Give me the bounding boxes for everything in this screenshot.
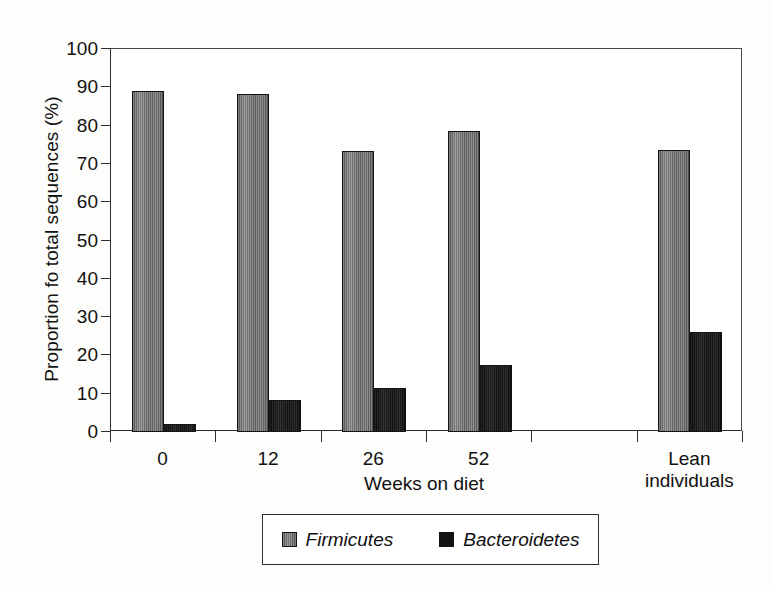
y-tick-mark — [101, 201, 110, 202]
x-tick-mark — [637, 431, 638, 442]
y-tick-mark — [101, 86, 110, 87]
y-tick-mark — [101, 354, 110, 355]
y-tick-label: 60 — [44, 192, 98, 211]
bar-chart-figure: Proportion fo total sequences (%) 010203… — [0, 0, 772, 591]
y-tick-mark — [101, 163, 110, 164]
y-tick-label: 90 — [44, 77, 98, 96]
bar-firmicutes-0 — [132, 91, 164, 432]
legend-swatch-icon — [282, 532, 297, 547]
y-tick-label: 10 — [44, 383, 98, 402]
x-tick-label: Lean individuals — [645, 448, 734, 493]
legend-swatch-icon — [439, 532, 454, 547]
bar-bacteroidetes-12 — [269, 400, 301, 432]
legend-label: Bacteroidetes — [463, 529, 579, 551]
plot-area — [110, 48, 742, 431]
x-tick-mark — [426, 431, 427, 442]
x-tick-label: 12 — [257, 448, 278, 470]
legend-item-bacteroidetes: Bacteroidetes — [439, 529, 579, 551]
y-tick-mark — [101, 431, 110, 432]
bar-bacteroidetes-52 — [480, 365, 512, 432]
y-tick-mark — [101, 48, 110, 49]
y-tick-label: 20 — [44, 345, 98, 364]
y-tick-label: 0 — [44, 422, 98, 441]
bar-firmicutes-52 — [448, 131, 480, 432]
chart-legend: Firmicutes Bacteroidetes — [262, 514, 599, 565]
legend-label: Firmicutes — [306, 529, 394, 551]
y-tick-mark — [101, 125, 110, 126]
x-tick-mark — [531, 431, 532, 442]
bar-bacteroidetes-lean-individuals — [690, 332, 722, 432]
y-tick-label: 80 — [44, 115, 98, 134]
y-tick-mark — [101, 278, 110, 279]
x-tick-mark — [742, 431, 743, 442]
y-tick-label: 50 — [44, 230, 98, 249]
bar-firmicutes-26 — [342, 151, 374, 432]
y-tick-label: 30 — [44, 307, 98, 326]
y-tick-label: 70 — [44, 153, 98, 172]
bar-bacteroidetes-26 — [374, 388, 406, 432]
y-tick-label: 100 — [44, 39, 98, 58]
y-tick-mark — [101, 240, 110, 241]
x-tick-mark — [215, 431, 216, 442]
x-tick-mark — [321, 431, 322, 442]
y-tick-mark — [101, 316, 110, 317]
y-tick-label: 40 — [44, 268, 98, 287]
bar-firmicutes-lean-individuals — [658, 150, 690, 432]
bar-firmicutes-12 — [237, 94, 269, 432]
x-tick-label: 26 — [363, 448, 384, 470]
x-axis-title: Weeks on diet — [364, 473, 484, 495]
legend-item-firmicutes: Firmicutes — [282, 529, 394, 551]
x-tick-mark — [110, 431, 111, 442]
y-tick-mark — [101, 393, 110, 394]
x-tick-label: 0 — [157, 448, 168, 470]
x-tick-label: 52 — [468, 448, 489, 470]
bar-bacteroidetes-0 — [164, 424, 196, 432]
